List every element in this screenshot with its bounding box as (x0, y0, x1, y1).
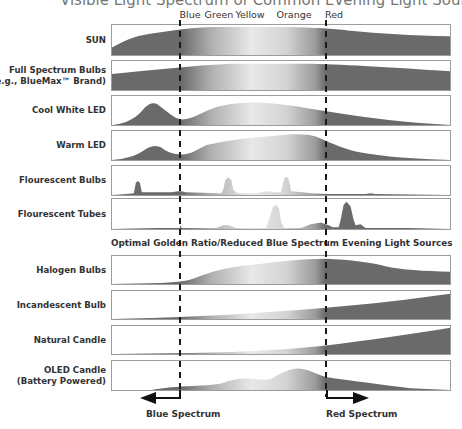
row-label-line2: (Battery Powered) (17, 376, 106, 387)
left-arrow-icon (140, 390, 184, 406)
blue-boundary-dashed-line (179, 20, 181, 397)
spectrum-plot-fluorescent-bulbs (111, 165, 451, 196)
row-label-full-spectrum: Full Spectrum Bulbs(e.g., BlueMax™ Brand… (0, 65, 106, 86)
row-label-line1: Incandescent Bulb (17, 300, 106, 311)
spectrum-curve-halogen-bulbs (112, 256, 450, 284)
row-label-line1: Flourescent Tubes (18, 209, 106, 220)
row-label-fluorescent-tubes: Flourescent Tubes (18, 209, 106, 220)
row-label-sun: SUN (86, 35, 106, 46)
row-label-line1: OLED Candle (17, 365, 106, 376)
red-spectrum-label: Red Spectrum (326, 409, 398, 419)
spectrum-plot-halogen-bulbs (111, 255, 451, 285)
row-label-line1: Halogen Bulbs (36, 265, 106, 276)
spectrum-curve-natural-candle (112, 326, 450, 354)
spectrum-plot-warm-led (111, 130, 451, 161)
color-label-yellow: Yellow (235, 9, 264, 20)
row-label-line1: Flourescent Bulbs (19, 175, 106, 186)
row-label-line2: (e.g., BlueMax™ Brand) (0, 76, 106, 87)
row-label-cool-white-led: Cool White LED (32, 105, 106, 116)
spectrum-curve-incandescent-bulb (112, 291, 450, 319)
spectrum-plot-natural-candle (111, 325, 451, 355)
spectrum-curve-warm-led (112, 131, 450, 160)
color-label-green: Green (205, 9, 234, 20)
row-label-line1: SUN (86, 35, 106, 46)
spectrum-curve-cool-white-led (112, 96, 450, 125)
spectrum-plot-incandescent-bulb (111, 290, 451, 320)
spectrum-plot-cool-white-led (111, 95, 451, 126)
right-arrow-icon (325, 390, 369, 406)
row-label-line1: Warm LED (56, 140, 106, 151)
row-label-halogen-bulbs: Halogen Bulbs (36, 265, 106, 276)
row-label-line1: Cool White LED (32, 105, 106, 116)
color-label-red: Red (325, 9, 343, 20)
spectrum-curve-fluorescent-bulbs (112, 166, 450, 195)
spectrum-plot-fluorescent-tubes (111, 198, 451, 230)
diagram-title: Visible Light Spectrum of Common Evening… (60, 0, 400, 9)
spectrum-plot-oled-candle (111, 360, 451, 391)
color-label-blue: Blue (179, 9, 200, 20)
spectrum-curve-oled-candle (112, 361, 450, 390)
red-boundary-dashed-line (325, 20, 327, 397)
row-label-incandescent-bulb: Incandescent Bulb (17, 300, 106, 311)
row-label-warm-led: Warm LED (56, 140, 106, 151)
row-label-fluorescent-bulbs: Flourescent Bulbs (19, 175, 106, 186)
row-label-natural-candle: Natural Candle (34, 335, 106, 346)
row-label-oled-candle: OLED Candle(Battery Powered) (17, 365, 106, 386)
color-label-orange: Orange (276, 9, 311, 20)
spectrum-curve-full-spectrum (112, 61, 450, 90)
row-label-line1: Full Spectrum Bulbs (0, 65, 106, 76)
row-label-line1: Natural Candle (34, 335, 106, 346)
spectrum-plot-sun (111, 24, 451, 56)
spectrum-plot-full-spectrum (111, 60, 451, 91)
spectrum-curve-fluorescent-tubes (112, 199, 450, 229)
blue-spectrum-label: Blue Spectrum (146, 409, 220, 419)
spectrum-curve-sun (112, 25, 450, 55)
section-caption: Optimal Golden Ratio/Reduced Blue Spectr… (111, 238, 451, 248)
